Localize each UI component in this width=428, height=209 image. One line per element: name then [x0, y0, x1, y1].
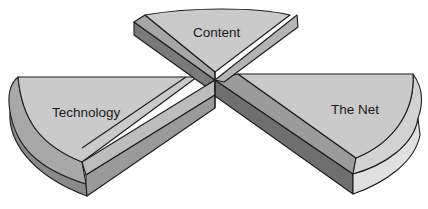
segment-technology: Technology — [9, 77, 215, 196]
technology-label: Technology — [52, 105, 121, 120]
the-net-label: The Net — [331, 102, 379, 117]
segment-the-net: The Net — [215, 74, 422, 194]
content-label: Content — [193, 25, 241, 40]
three-segment-pie-diagram: Technology The Net Content — [0, 0, 428, 209]
